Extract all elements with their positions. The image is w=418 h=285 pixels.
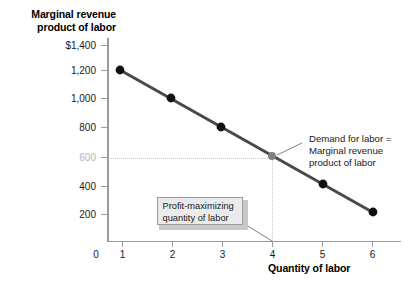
marginal-revenue-product-chart: Marginal revenue product of labor $1,400…: [0, 0, 418, 285]
data-point-5: [319, 180, 328, 189]
demand-annotation-line-3: product of labor: [309, 157, 417, 169]
data-point-3: [217, 123, 226, 132]
demand-label-leader-line: [277, 143, 302, 155]
data-point-6: [369, 208, 378, 217]
data-point-1: [116, 66, 125, 75]
callout-line-1: Profit-maximizing: [163, 201, 238, 213]
demand-annotation-line-1: Demand for labor =: [309, 133, 417, 145]
profit-maximizing-callout: Profit-maximizing quantity of labor: [157, 197, 243, 225]
demand-curve-annotation: Demand for labor = Marginal revenue prod…: [309, 133, 417, 170]
demand-annotation-line-2: Marginal revenue: [309, 145, 417, 157]
x-axis-title: Quantity of labor: [268, 262, 414, 274]
data-point-2: [167, 94, 176, 103]
callout-line-2: quantity of labor: [163, 213, 238, 225]
data-point-4-highlight: [268, 152, 276, 160]
